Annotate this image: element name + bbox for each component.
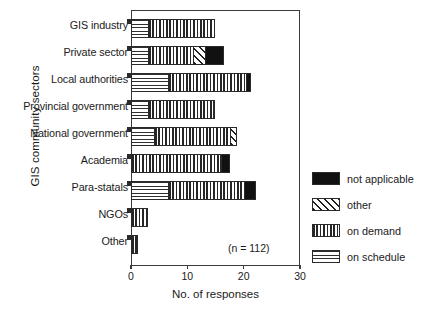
legend-item: on schedule: [312, 246, 432, 267]
bar-chart-figure: GIS community sectors GIS industry Priva…: [0, 0, 434, 315]
category-label: Academia: [6, 155, 128, 166]
bar-segment: [154, 127, 230, 146]
bar: [131, 181, 256, 200]
bar-segment: [131, 100, 148, 119]
legend-swatch: [312, 198, 340, 211]
legend-item: other: [312, 194, 432, 215]
x-axis-tick: [243, 265, 244, 269]
category-label: Para-statals: [6, 182, 128, 193]
legend-label: on demand: [347, 225, 401, 237]
sample-size-annotation: (n = 112): [228, 242, 270, 254]
bar-segment: [148, 19, 216, 38]
x-axis-tick: [187, 265, 188, 269]
category-label: National government: [6, 128, 128, 139]
bar-segment: [131, 208, 148, 227]
bar-segment: [246, 73, 251, 92]
bar-segment: [131, 154, 221, 173]
bar-segment: [193, 46, 205, 65]
legend-label: not applicable: [347, 173, 414, 185]
bar: [131, 154, 230, 173]
bar: [131, 235, 138, 254]
x-axis-tick: [130, 265, 131, 269]
x-axis-line: [131, 265, 300, 266]
bar: [131, 46, 224, 65]
category-label: Provincial government: [6, 101, 128, 112]
category-label: GIS industry: [6, 20, 128, 31]
bar: [131, 100, 215, 119]
bar-segment: [131, 127, 154, 146]
bar-segment: [213, 100, 216, 119]
x-axis-tick-label: 0: [111, 270, 151, 282]
legend: not applicableotheron demandon schedule: [312, 168, 432, 272]
category-label: Other: [6, 236, 128, 247]
bar-segment: [168, 73, 247, 92]
category-label: NGOs: [6, 209, 128, 220]
bar: [131, 208, 148, 227]
bar-segment: [131, 181, 168, 200]
x-axis-title: No. of responses: [131, 288, 300, 300]
legend-item: not applicable: [312, 168, 432, 189]
x-axis-tick-label: 20: [224, 270, 264, 282]
bar-segment: [131, 73, 168, 92]
bar-segment: [131, 46, 148, 65]
x-axis-tick-label: 10: [167, 270, 207, 282]
x-axis-tick: [299, 265, 300, 269]
legend-swatch: [312, 224, 340, 237]
bar-segment: [230, 127, 237, 146]
bar-segment: [221, 154, 229, 173]
legend-swatch: [312, 172, 340, 185]
category-label: Local authorities: [6, 74, 128, 85]
bar: [131, 73, 251, 92]
bar-segment: [168, 181, 244, 200]
y-axis-category-labels: GIS industry Private sector Local author…: [0, 0, 128, 315]
bar: [131, 127, 237, 146]
bar-segment: [148, 46, 193, 65]
bar-segment: [205, 46, 224, 65]
category-label: Private sector: [6, 47, 128, 58]
bar: [131, 19, 215, 38]
legend-label: other: [347, 199, 372, 211]
bars-container: [131, 10, 300, 265]
legend-swatch: [312, 250, 340, 263]
legend-label: on schedule: [347, 251, 405, 263]
bar-segment: [244, 181, 256, 200]
legend-item: on demand: [312, 220, 432, 241]
bar-segment: [148, 100, 213, 119]
bar-segment: [131, 19, 148, 38]
bar-segment: [131, 235, 138, 254]
